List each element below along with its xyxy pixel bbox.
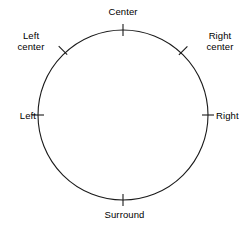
- label-surround: Surround: [0, 209, 249, 220]
- label-right: Right: [216, 110, 239, 121]
- label-right-center-line2: center: [189, 41, 251, 52]
- label-right-center: Right center: [189, 30, 251, 52]
- label-left-center: Left center: [0, 30, 62, 52]
- speaker-placement-diagram: Center Left center Right center Left Rig…: [0, 0, 252, 229]
- label-left: Left: [2, 110, 36, 121]
- soundfield-circle: [38, 30, 208, 200]
- label-left-center-line1: Left: [0, 30, 62, 41]
- label-right-center-line1: Right: [189, 30, 251, 41]
- label-left-center-line2: center: [0, 41, 62, 52]
- label-center: Center: [0, 6, 246, 17]
- tick-right-center: [179, 46, 188, 55]
